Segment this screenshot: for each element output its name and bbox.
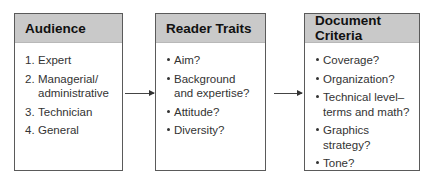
item-text-line: and expertise? [174,87,249,99]
item-text: Coverage? [323,53,379,68]
criteria-coverage: Coverage? [315,53,411,68]
reader-traits-box-header: Reader Traits [156,14,265,43]
reader-trait-diversity: Diversity? [166,123,257,138]
reader-traits-box: Reader Traits Aim? Background and expert… [155,13,266,171]
reader-trait-attitude: Attitude? [166,105,257,120]
criteria-tone: Tone? [315,156,411,171]
audience-item-technician: 3. Technician [25,105,114,120]
item-text: Graphics strategy? [323,123,411,152]
item-text-line: Background [174,73,235,85]
audience-item-general: 4. General [25,123,114,138]
reader-traits-list: Aim? Background and expertise? Attitude?… [156,43,265,138]
item-text: General [38,123,79,138]
reader-trait-background: Background and expertise? [166,72,257,101]
arrow-right-icon [125,93,154,94]
bullet-icon [315,90,323,119]
item-text: Technician [38,105,92,120]
item-text: Background and expertise? [174,72,249,101]
reader-trait-aim: Aim? [166,53,257,68]
item-text: Expert [38,53,71,68]
item-text: Organization? [323,72,395,87]
audience-box: Audience 1. Expert 2. Managerial/ admini… [14,13,123,171]
audience-item-expert: 1. Expert [25,53,114,68]
item-text: Diversity? [174,123,224,138]
item-text: Tone? [323,156,354,171]
bullet-icon [166,123,174,138]
criteria-graphics-strategy: Graphics strategy? [315,123,411,152]
bullet-icon [315,156,323,171]
list-number: 3. [25,105,38,120]
document-criteria-box-header: Document Criteria [305,14,419,43]
item-text-line: terms and math? [323,106,409,118]
item-text-line: Managerial/ [38,73,98,85]
list-number: 2. [25,72,38,101]
arrow-right-icon [274,93,302,94]
document-criteria-box: Document Criteria Coverage? Organization… [304,13,420,171]
bullet-icon [166,72,174,101]
bullet-icon [166,105,174,120]
item-text-line: administrative [38,87,109,99]
audience-box-header: Audience [15,14,122,43]
criteria-technical-level: Technical level– terms and math? [315,90,411,119]
item-text: Technical level– terms and math? [323,90,409,119]
audience-item-managerial: 2. Managerial/ administrative [25,72,114,101]
item-text: Managerial/ administrative [38,72,109,101]
item-text: Aim? [174,53,200,68]
bullet-icon [166,53,174,68]
list-number: 1. [25,53,38,68]
item-text-line: Technical level– [323,91,404,103]
bullet-icon [315,123,323,152]
audience-list: 1. Expert 2. Managerial/ administrative … [15,43,122,138]
item-text: Attitude? [174,105,219,120]
bullet-icon [315,72,323,87]
criteria-organization: Organization? [315,72,411,87]
bullet-icon [315,53,323,68]
list-number: 4. [25,123,38,138]
document-criteria-list: Coverage? Organization? Technical level–… [305,43,419,171]
